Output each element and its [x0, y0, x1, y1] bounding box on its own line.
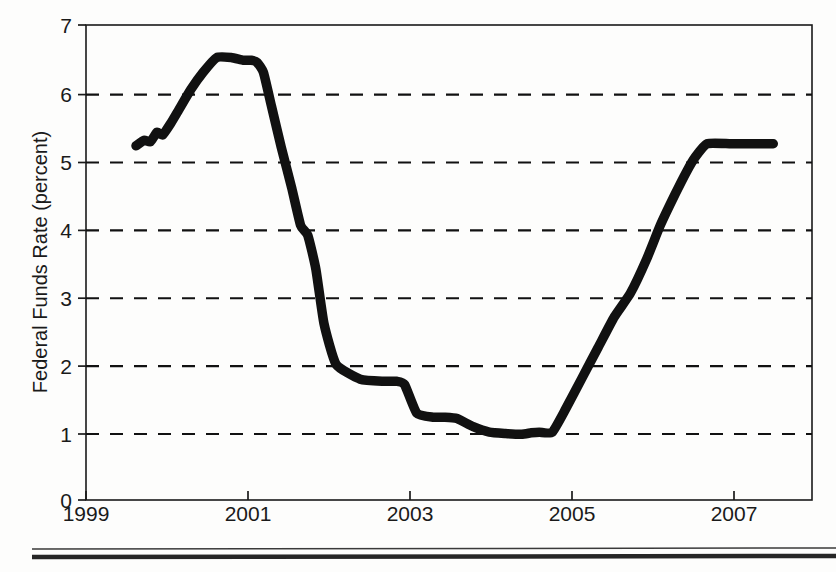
y-tick-label-7: 7 [60, 14, 72, 37]
x-tick-label-2005: 2005 [549, 502, 596, 525]
x-axis-tick-labels: 1999 2001 2003 2005 2007 [63, 502, 758, 525]
x-axis-ticks [86, 491, 734, 500]
y-tick-label-1: 1 [60, 423, 72, 446]
y-axis-title: Federal Funds Rate (percent) [29, 131, 51, 393]
footer-rules [32, 548, 836, 557]
y-axis-ticks [78, 25, 86, 500]
federal-funds-rate-line [136, 57, 773, 434]
y-tick-label-2: 2 [60, 355, 72, 378]
plot-border [86, 25, 812, 500]
footer-rule-thin [32, 548, 836, 549]
federal-funds-rate-chart: 7 6 5 4 3 2 1 0 1999 2001 2003 2005 2007… [0, 0, 836, 572]
plot-frame [86, 25, 812, 500]
y-tick-label-4: 4 [60, 219, 72, 242]
x-tick-label-2003: 2003 [387, 502, 434, 525]
y-tick-label-5: 5 [60, 151, 72, 174]
x-tick-label-2001: 2001 [225, 502, 272, 525]
y-axis-tick-labels: 7 6 5 4 3 2 1 0 [60, 14, 72, 512]
x-tick-label-1999: 1999 [63, 502, 110, 525]
y-tick-label-6: 6 [60, 83, 72, 106]
x-tick-label-2007: 2007 [711, 502, 758, 525]
footer-rule-thick [32, 556, 836, 557]
figure-container: 7 6 5 4 3 2 1 0 1999 2001 2003 2005 2007… [0, 0, 836, 572]
y-tick-label-3: 3 [60, 287, 72, 310]
